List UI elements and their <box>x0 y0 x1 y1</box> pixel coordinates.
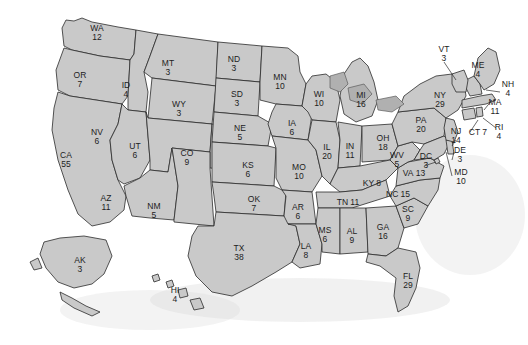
state-votes: 3 <box>454 155 466 164</box>
state-label-nm[interactable]: NM5 <box>147 202 160 220</box>
state-label-ri[interactable]: RI4 <box>495 123 504 141</box>
state-votes: 29 <box>434 100 446 109</box>
state-label-id[interactable]: ID4 <box>122 81 131 99</box>
state-label-wy[interactable]: WY3 <box>172 100 186 118</box>
state-votes: 55 <box>60 160 72 169</box>
state-label-nv[interactable]: NV6 <box>91 128 103 146</box>
state-label-ut[interactable]: UT6 <box>129 142 141 160</box>
state-label-ga[interactable]: GA16 <box>377 223 389 241</box>
state-votes: 3 <box>172 109 186 118</box>
state-votes: 5 <box>390 160 404 169</box>
state-label-nh[interactable]: NH4 <box>502 80 514 98</box>
state-votes: 4 <box>495 132 504 141</box>
us-electoral-map: WA12OR7ID4MT3WY3ND3SD3NE5MN10IA6WI10MI16… <box>0 0 528 345</box>
state-label-ms[interactable]: MS6 <box>319 226 332 244</box>
state-votes: 16 <box>356 100 366 109</box>
state-label-sd[interactable]: SD3 <box>231 90 243 108</box>
state-votes: 10 <box>314 99 325 108</box>
state-label-wv[interactable]: WV5 <box>390 151 404 169</box>
state-votes: 7 <box>74 80 87 89</box>
state-votes: 20 <box>322 152 332 161</box>
state-votes: 9 <box>347 236 358 245</box>
state-label-ma[interactable]: MA11 <box>489 98 502 116</box>
state-votes: 3 <box>231 99 243 108</box>
state-label-nd[interactable]: ND3 <box>228 55 240 73</box>
state-votes: 7 <box>482 127 487 137</box>
state-label-ok[interactable]: OK7 <box>248 195 260 213</box>
state-label-il[interactable]: IL20 <box>322 143 332 161</box>
state-votes: 4 <box>472 70 485 79</box>
state-label-mi[interactable]: MI16 <box>356 91 366 109</box>
state-label-ca[interactable]: CA55 <box>60 151 72 169</box>
state-label-ky[interactable]: KY8 <box>363 179 381 188</box>
state-label-la[interactable]: LA8 <box>301 242 312 260</box>
state-label-ak[interactable]: AK3 <box>74 256 86 274</box>
state-votes: 3 <box>162 68 174 77</box>
state-label-nj[interactable]: NJ14 <box>451 127 462 145</box>
state-ri[interactable] <box>476 107 483 117</box>
state-label-mn[interactable]: MN10 <box>273 73 286 91</box>
state-label-ks[interactable]: KS6 <box>242 161 254 179</box>
state-label-tx[interactable]: TX38 <box>233 244 244 262</box>
state-votes: 8 <box>376 178 381 188</box>
state-abbr: VA <box>403 168 414 178</box>
state-label-oh[interactable]: OH18 <box>377 134 390 152</box>
state-votes: 6 <box>292 212 304 221</box>
state-label-wi[interactable]: WI10 <box>314 90 325 108</box>
state-label-ny[interactable]: NY29 <box>434 91 446 109</box>
state-label-ne[interactable]: NE5 <box>234 124 246 142</box>
state-label-ar[interactable]: AR6 <box>292 203 304 221</box>
state-label-az[interactable]: AZ11 <box>100 194 111 212</box>
state-label-mo[interactable]: MO10 <box>292 163 306 181</box>
state-label-md[interactable]: MD10 <box>454 168 467 186</box>
state-label-sc[interactable]: SC9 <box>402 205 414 223</box>
state-votes: 6 <box>242 170 254 179</box>
state-abbr: NC <box>386 189 398 199</box>
state-ct[interactable] <box>462 108 476 120</box>
state-votes: 11 <box>345 151 354 160</box>
state-votes: 6 <box>129 151 141 160</box>
state-label-al[interactable]: AL9 <box>347 227 358 245</box>
state-votes: 16 <box>377 232 389 241</box>
state-label-tn[interactable]: TN11 <box>337 198 360 207</box>
state-vt[interactable] <box>452 70 468 92</box>
state-label-ia[interactable]: IA6 <box>288 119 296 137</box>
state-votes: 29 <box>403 281 413 290</box>
state-votes: 9 <box>181 158 194 167</box>
state-label-co[interactable]: CO9 <box>181 149 194 167</box>
state-label-pa[interactable]: PA20 <box>416 116 427 134</box>
state-votes: 3 <box>228 64 240 73</box>
state-votes: 4 <box>171 295 180 304</box>
state-label-ct[interactable]: CT7 <box>469 128 487 137</box>
state-votes: 38 <box>233 253 244 262</box>
state-votes: 10 <box>454 177 467 186</box>
state-label-nc[interactable]: NC15 <box>386 190 410 199</box>
state-votes: 4 <box>122 90 131 99</box>
state-label-me[interactable]: ME4 <box>472 61 485 79</box>
state-votes: 3 <box>74 265 86 274</box>
state-votes: 5 <box>147 211 160 220</box>
state-label-mt[interactable]: MT3 <box>162 59 174 77</box>
state-votes: 12 <box>90 33 104 42</box>
state-votes: 3 <box>438 54 449 63</box>
state-votes: 6 <box>91 137 103 146</box>
state-label-or[interactable]: OR7 <box>74 71 87 89</box>
state-votes: 11 <box>100 203 111 212</box>
state-votes: 9 <box>402 214 414 223</box>
state-votes: 10 <box>292 172 306 181</box>
state-label-in[interactable]: IN11 <box>345 142 354 160</box>
state-abbr: KY <box>363 178 375 188</box>
state-label-hi[interactable]: HI4 <box>171 286 180 304</box>
state-abbr: CT <box>469 127 481 137</box>
state-votes: 20 <box>416 125 427 134</box>
state-votes: 14 <box>451 136 462 145</box>
state-votes: 10 <box>273 82 286 91</box>
state-votes: 18 <box>377 143 390 152</box>
state-label-vt[interactable]: VT3 <box>438 45 449 63</box>
state-label-wa[interactable]: WA12 <box>90 24 104 42</box>
state-votes: 11 <box>350 197 359 207</box>
state-label-de[interactable]: DE3 <box>454 146 466 164</box>
state-label-dc[interactable]: DC3 <box>420 152 432 170</box>
state-label-fl[interactable]: FL29 <box>403 272 413 290</box>
state-votes: 6 <box>319 235 332 244</box>
